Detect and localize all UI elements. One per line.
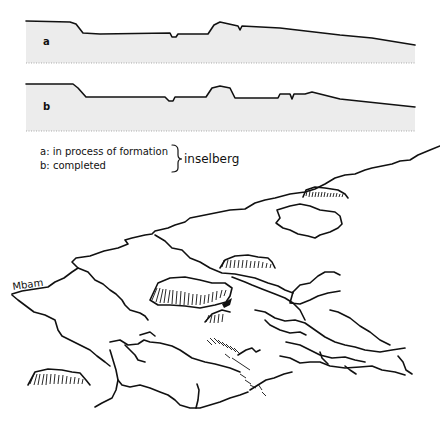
profile-b-label: b	[43, 101, 50, 112]
inselberg-top-right	[303, 187, 348, 198]
inselberg-bottom-left	[28, 369, 90, 385]
brace-icon	[172, 145, 182, 172]
river-label-mbam: Mbam	[12, 277, 44, 292]
legend-group-label: inselberg	[184, 152, 239, 166]
profile-b: b	[26, 84, 415, 131]
profile-a: a	[26, 21, 415, 63]
legend: a: in process of formation b: completed …	[40, 145, 239, 172]
inselberg-large-center	[150, 277, 232, 308]
river-network	[12, 146, 440, 408]
inselberg-upper-middle	[220, 255, 275, 268]
legend-item-a: a: in process of formation	[40, 146, 168, 157]
profile-a-label: a	[43, 36, 50, 47]
legend-item-b: b: completed	[40, 160, 106, 171]
dissected-slope	[207, 338, 266, 396]
inselberg-diagram: a b a: in process of formation b: comple…	[0, 0, 440, 428]
inselberg-small-center	[205, 310, 230, 323]
